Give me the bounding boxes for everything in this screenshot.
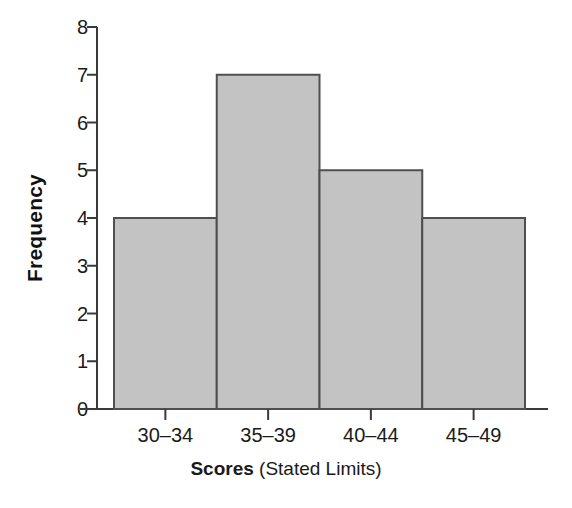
- x-axis-tick-labels: 30–3435–3940–4445–49: [0, 424, 572, 454]
- x-axis-tick-label: 45–49: [446, 424, 502, 447]
- x-axis-tick-label: 35–39: [240, 424, 296, 447]
- x-axis-title-regular: (Stated Limits): [254, 458, 382, 479]
- x-axis-ticks: [165, 409, 473, 420]
- histogram-bar: [114, 218, 217, 409]
- x-axis-title: Scores (Stated Limits): [0, 458, 572, 480]
- histogram-bar: [217, 75, 320, 409]
- histogram-figure: Frequency 012345678 30–3435–3940–4445–49…: [0, 0, 572, 508]
- y-axis-ticks: [87, 27, 97, 409]
- x-axis-title-bold: Scores: [190, 458, 253, 479]
- histogram-bar: [320, 170, 423, 409]
- x-axis-tick-label: 30–34: [138, 424, 194, 447]
- x-axis-tick-label: 40–44: [343, 424, 399, 447]
- histogram-bar: [422, 218, 525, 409]
- bar-series: [114, 75, 525, 409]
